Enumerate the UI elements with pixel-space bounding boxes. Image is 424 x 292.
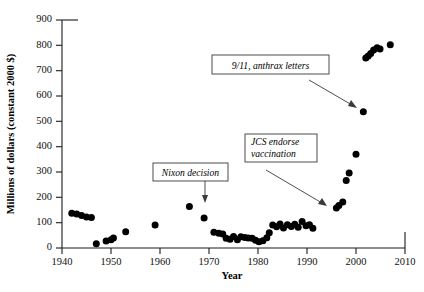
y-tick-label-700: 700 — [36, 64, 52, 75]
data-point — [387, 41, 394, 48]
x-tick-1950: 1950 — [101, 248, 122, 267]
y-axis-title: Millions of dollars (constant 2000 $) — [5, 53, 17, 214]
x-tick-2000: 2000 — [346, 248, 367, 267]
y-tick-label-900: 900 — [36, 13, 52, 24]
data-point — [339, 198, 346, 205]
data-point — [309, 225, 316, 232]
x-tick-1990: 1990 — [297, 248, 318, 267]
jcs-annotation-label-line1: JCS endorse — [251, 136, 300, 147]
jcs-leader-arrowhead — [318, 198, 327, 206]
x-tick-label-1940: 1940 — [52, 256, 73, 267]
data-point — [201, 215, 208, 222]
anthrax-annotation-label: 9/11, anthrax letters — [232, 60, 310, 71]
annotation-anthrax[interactable]: 9/11, anthrax letters — [212, 55, 329, 74]
y-tick-500: 500 — [36, 115, 62, 126]
y-tick-label-500: 500 — [36, 115, 52, 126]
data-point — [346, 170, 353, 177]
x-tick-1970: 1970 — [199, 248, 220, 267]
y-tick-900: 900 — [36, 13, 62, 24]
x-tick-1960: 1960 — [150, 248, 171, 267]
data-point — [122, 228, 129, 235]
data-point — [377, 45, 384, 52]
y-tick-700: 700 — [36, 64, 62, 75]
x-tick-label-1970: 1970 — [199, 256, 220, 267]
jcs-leader-line — [266, 170, 322, 203]
y-tick-800: 800 — [36, 39, 62, 50]
data-point — [88, 214, 95, 221]
x-tick-label-1950: 1950 — [101, 256, 122, 267]
data-point — [343, 177, 350, 184]
anthrax-leader-arrowhead — [348, 100, 357, 108]
y-tick-label-200: 200 — [36, 191, 52, 202]
anthrax-leader-line — [309, 80, 352, 105]
axes-group — [62, 20, 405, 248]
x-tick-1940: 1940 — [52, 248, 73, 267]
y-tick-300: 300 — [36, 165, 62, 176]
jcs-annotation-label-line2: vaccination — [251, 148, 296, 159]
y-tick-label-400: 400 — [36, 140, 52, 151]
x-tick-label-1960: 1960 — [150, 256, 171, 267]
y-tick-600: 600 — [36, 89, 62, 100]
y-tick-200: 200 — [36, 191, 62, 202]
data-point — [152, 221, 159, 228]
y-axis-ticks: 0 100 200 300 400 500 600 700 800 900 — [36, 13, 62, 252]
y-tick-label-600: 600 — [36, 89, 52, 100]
x-axis-ticks: 1940 1950 1960 1970 1980 1990 2000 2010 — [52, 248, 416, 267]
chart-figure: 0 100 200 300 400 500 600 700 800 900 — [0, 0, 424, 292]
data-point — [360, 108, 367, 115]
nixon-annotation-label: Nixon decision — [161, 167, 219, 178]
scatter-plot-svg: 0 100 200 300 400 500 600 700 800 900 — [0, 0, 424, 292]
x-axis-title: Year — [222, 270, 243, 281]
data-point — [93, 240, 100, 247]
x-tick-label-2010: 2010 — [395, 256, 416, 267]
y-tick-0: 0 — [47, 241, 62, 252]
x-tick-1980: 1980 — [248, 248, 269, 267]
y-tick-100: 100 — [36, 216, 62, 227]
y-tick-400: 400 — [36, 140, 62, 151]
y-tick-label-0: 0 — [47, 241, 52, 252]
x-tick-label-1980: 1980 — [248, 256, 269, 267]
nixon-leader-arrowhead — [202, 195, 208, 203]
y-tick-label-300: 300 — [36, 165, 52, 176]
data-point — [110, 235, 117, 242]
x-tick-label-2000: 2000 — [346, 256, 367, 267]
y-tick-label-800: 800 — [36, 39, 52, 50]
data-point — [353, 151, 360, 158]
x-tick-label-1990: 1990 — [297, 256, 318, 267]
data-point — [186, 203, 193, 210]
annotation-nixon[interactable]: Nixon decision — [153, 163, 228, 181]
annotation-jcs[interactable]: JCS endorse vaccination — [245, 134, 317, 162]
data-point — [295, 224, 302, 231]
data-point — [266, 229, 273, 236]
x-tick-2010: 2010 — [395, 248, 416, 267]
y-tick-label-100: 100 — [36, 216, 52, 227]
